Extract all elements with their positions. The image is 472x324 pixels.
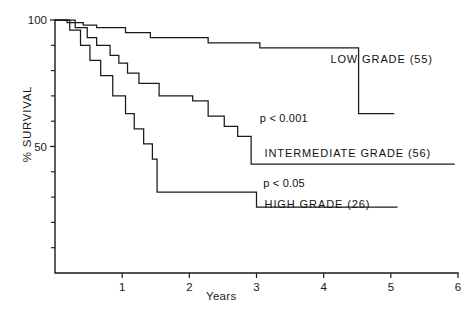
plot-area: 10050123456: [0, 0, 472, 324]
x-tick-label: 6: [455, 281, 461, 293]
x-tick-label: 2: [186, 281, 192, 293]
survival-chart-figure: 10050123456 % SURVIVAL Years LOW GRADE (…: [0, 0, 472, 324]
series-label-low-grade: LOW GRADE (55): [330, 53, 432, 65]
y-tick-label: 100: [28, 14, 47, 26]
series-label-high-grade: HIGH GRADE (26): [265, 198, 371, 210]
x-axis-title: Years: [206, 290, 237, 302]
y-axis-title: % SURVIVAL: [21, 69, 33, 179]
survival-curve-low-grade: [55, 20, 394, 114]
x-tick-label: 1: [119, 281, 125, 293]
series-label-intermediate-grade: INTERMEDIATE GRADE (56): [265, 147, 432, 159]
pvalue-annotation-intermediate-vs-high: p < 0.05: [263, 177, 305, 189]
pvalue-annotation-low-vs-intermediate: p < 0.001: [260, 112, 308, 124]
x-tick-label: 5: [388, 281, 394, 293]
y-tick-label: 50: [34, 141, 47, 153]
x-tick-label: 4: [320, 281, 327, 293]
x-tick-label: 3: [253, 281, 259, 293]
survival-curve-intermediate-grade: [55, 20, 455, 164]
survival-curves-group: [55, 20, 455, 207]
